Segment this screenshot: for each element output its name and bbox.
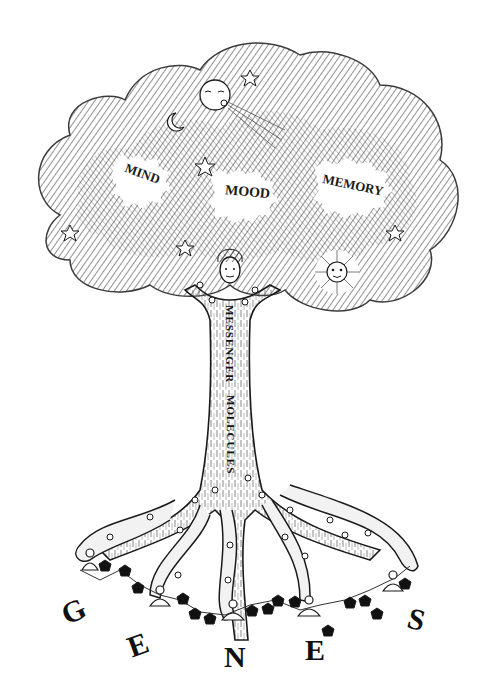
genes-letter-e2: E [305, 633, 325, 666]
tree-illustration: MIND MOOD MEMORY MESSENGER MO [0, 0, 488, 689]
trunk-figure-icon [218, 249, 242, 283]
label-molecules: MOLECULES [225, 395, 237, 474]
genes-letter-s: S [404, 601, 429, 637]
genes-letter-g: G [56, 591, 91, 631]
genes-letter-n: N [224, 640, 246, 673]
canopy [39, 43, 458, 311]
label-messenger: MESSENGER [224, 305, 236, 383]
trunk [76, 249, 418, 640]
genes-letter-e1: E [123, 626, 153, 664]
sun-icon [315, 250, 359, 294]
